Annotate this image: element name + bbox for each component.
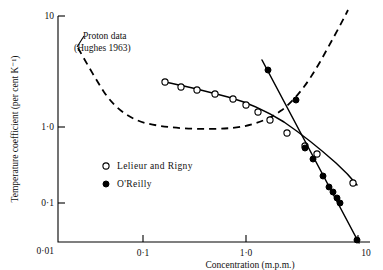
lelieur-rigny-line xyxy=(165,82,357,185)
oreilly-line xyxy=(262,60,359,243)
legend-label-lelieur-rigny: Lelieur and Rigny xyxy=(117,161,193,171)
y-axis-ticks xyxy=(58,16,65,203)
chart-svg: 10 1·0 0·1 0·01 0·1 1·0 10 Concentration… xyxy=(0,0,383,270)
legend-marker-filled-circle xyxy=(103,181,109,187)
x-axis-title: Concentration (m.p.m.) xyxy=(205,260,294,270)
legend-marker-open-circle xyxy=(103,163,109,169)
x-axis-ticks xyxy=(143,235,358,242)
y-tick-label-10: 10 xyxy=(45,11,55,21)
proton-dashed-curve xyxy=(78,10,348,129)
annotation-proton-data: Proton data xyxy=(83,31,127,41)
y-tick-label-1: 1·0 xyxy=(41,122,54,132)
y-axis-title: Temperature coefficient (per cent K⁻¹) xyxy=(10,56,21,203)
y-tick-label-0-1: 0·1 xyxy=(41,198,54,208)
annotation-hughes-1963: (Hughes 1963) xyxy=(74,43,131,54)
legend-label-oreilly: O'Reilly xyxy=(117,179,152,189)
figure-container: 10 1·0 0·1 0·01 0·1 1·0 10 Concentration… xyxy=(0,0,383,270)
y-tick-label-0-01: 0·01 xyxy=(37,246,55,256)
legend: Lelieur and Rigny O'Reilly xyxy=(103,161,193,189)
x-tick-label-0-1: 0·1 xyxy=(137,248,150,258)
x-tick-label-10: 10 xyxy=(361,248,371,258)
x-tick-label-1: 1·0 xyxy=(240,248,253,258)
